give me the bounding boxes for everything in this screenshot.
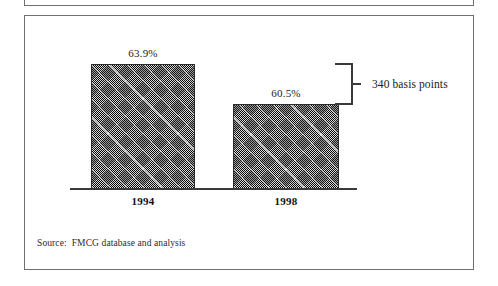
source-note-label: Source:: [37, 238, 67, 248]
source-note: Source:FMCG database and analysis: [37, 237, 185, 249]
bar-chart: 63.9% 60.5% 1994 1998 340 basis points: [25, 16, 475, 271]
previous-exhibit-box-fragment: [24, 0, 474, 6]
bracket-top-arm: [335, 63, 352, 65]
bar-1994: [91, 64, 195, 189]
x-axis-tick-label-1998: 1998: [233, 195, 339, 208]
x-axis-line: [70, 188, 357, 190]
bar-value-label-1994: 63.9%: [91, 47, 195, 60]
delta-annotation-label: 340 basis points: [372, 77, 448, 91]
source-note-text: FMCG database and analysis: [72, 238, 186, 248]
exhibit-frame: 63.9% 60.5% 1994 1998 340 basis points S…: [24, 15, 474, 270]
scanned-page: 63.9% 60.5% 1994 1998 340 basis points S…: [0, 0, 498, 286]
bar-1998: [233, 104, 339, 189]
bracket-pointer-tick: [353, 83, 361, 85]
x-axis-tick-label-1994: 1994: [91, 195, 195, 208]
bar-value-label-1998: 60.5%: [233, 87, 339, 100]
delta-bracket-icon: [335, 63, 353, 105]
bracket-bottom-arm: [335, 103, 352, 105]
